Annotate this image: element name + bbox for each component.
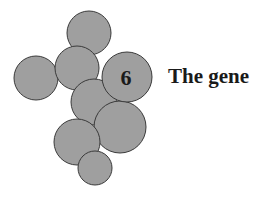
circle-left bbox=[14, 56, 58, 100]
chapter-number: 6 bbox=[121, 65, 132, 90]
circle-cluster-graphic: 6 bbox=[0, 0, 273, 198]
circle-large-right bbox=[94, 101, 146, 153]
circle-bottom bbox=[78, 151, 112, 185]
chapter-title: The gene bbox=[168, 64, 249, 89]
